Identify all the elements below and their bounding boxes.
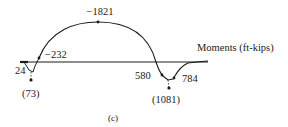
axis-label: Moments (ft-kips) — [197, 42, 274, 54]
label-right-min: (1081) — [152, 94, 180, 106]
label-right-start: 580 — [135, 70, 151, 81]
label-right-end: 784 — [182, 73, 199, 84]
moment-diagram: −1821 −232 24 (73) 580 (1081) 784 Moment… — [0, 0, 288, 127]
right-start-point — [161, 74, 164, 77]
label-peak: −1821 — [87, 6, 114, 17]
caption: (c) — [108, 113, 118, 123]
label-left-min: (73) — [22, 88, 40, 100]
label-inflection-left: −232 — [45, 49, 67, 60]
left-dip-curve — [24, 58, 39, 72]
right-end-point — [173, 77, 176, 80]
label-left-end: 24 — [15, 65, 26, 76]
right-min-point — [167, 86, 170, 89]
left-min-point — [29, 78, 32, 81]
peak-point — [97, 21, 100, 24]
inflection-point — [38, 57, 41, 60]
